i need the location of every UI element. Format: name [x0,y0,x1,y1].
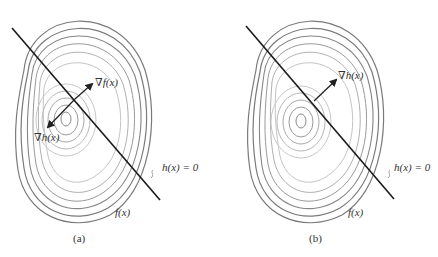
objective-label-b: f(x) [348,206,363,218]
grad-h-label-a: ∇h(x) [34,131,59,144]
constraint-line-b [246,26,394,199]
constraint-label-a: h(x) = 0 [162,161,198,173]
sublabel-a: (a) [73,232,85,244]
leader-line-a [151,170,153,178]
grad-h-arrow-b [314,80,336,101]
panel-a: ∇f(x) ∇h(x) h(x) = 0 f(x) (a) [0,0,219,257]
leader-line-b [388,170,390,178]
panel-b: ∇h(x) h(x) = 0 f(x) (b) [218,0,437,257]
grad-f-label-a: ∇f(x) [95,76,118,89]
grad-h-label-b: ∇h(x) [338,69,363,82]
f-contours [16,21,152,223]
contour-plot-a [0,0,219,257]
contour-plot-b [218,0,437,257]
objective-label-a: f(x) [115,206,130,218]
constraint-label-b: h(x) = 0 [394,161,430,173]
sublabel-b: (b) [309,232,322,244]
